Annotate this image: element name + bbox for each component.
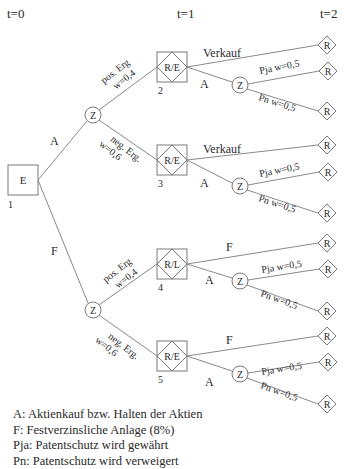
svg-text:R: R [324, 40, 331, 51]
svg-text:R: R [324, 140, 331, 151]
svg-text:R: R [324, 208, 331, 219]
chance-label: Z [90, 110, 96, 121]
terminal-node: R [318, 36, 336, 54]
time-label-t0: t=0 [7, 6, 24, 21]
node-number: 5 [158, 374, 163, 385]
svg-text:R: R [325, 167, 332, 178]
edge-node2-A [187, 67, 232, 82]
svg-text:R: R [324, 306, 331, 317]
edge-label-A: A [200, 77, 209, 91]
legend: A: Aktienkauf bzw. Halten der Aktien F: … [13, 407, 202, 469]
chance-node-2: Z [232, 77, 248, 93]
terminal-node: R [318, 327, 336, 345]
terminal-node: R [318, 204, 336, 222]
terminal-node: R [319, 353, 337, 371]
edge-label-pja: Pja w=0,5 [258, 57, 300, 76]
svg-text:R: R [324, 238, 331, 249]
root-node-label: E [20, 174, 27, 186]
terminal-node: R [318, 102, 336, 120]
edge-node5-A [187, 356, 232, 371]
edge-label-pja: Pja w=0,5 [261, 360, 303, 377]
edge-label-A: A [200, 176, 209, 190]
edge-label-pn: Pn w=0,5 [259, 288, 299, 311]
edge-label-node2: pos. Erg w=0,4 [98, 56, 138, 95]
terminal-node: R [318, 302, 336, 320]
chance-node-4: Z [232, 273, 248, 289]
chance-node-A: Z [85, 107, 101, 123]
edge-label-node3: neg. Erg. w=0,6 [97, 129, 144, 172]
edge-root-A [38, 121, 87, 180]
edge-label-pn: Pn w=0,5 [257, 192, 297, 214]
decision-node-4: R/L 4 [157, 249, 187, 293]
legend-item-Pja: Pja: Patentschutz wird gewährt [13, 438, 202, 454]
svg-text:R: R [324, 331, 331, 342]
edge-label-verkauf: Verkauf [203, 46, 241, 60]
svg-text:R/E: R/E [164, 62, 180, 73]
edge-label-pn: Pn w=0,5 [259, 380, 299, 403]
svg-text:R/L: R/L [164, 259, 180, 270]
chance-label: Z [90, 305, 96, 316]
svg-text:R: R [324, 399, 331, 410]
chance-node-3: Z [232, 178, 248, 194]
svg-text:R: R [325, 66, 332, 77]
terminal-node: R [318, 395, 336, 413]
terminal-node: R [319, 62, 337, 80]
edge-label-F: F [51, 244, 58, 258]
svg-text:R: R [325, 264, 332, 275]
terminal-node: R [319, 260, 337, 278]
decision-node-2: R/E 2 [157, 52, 187, 96]
legend-item-Pn: Pn: Patentschutz wird verweigert [13, 454, 202, 469]
chance-node-5: Z [232, 366, 248, 382]
edge-node3-A [187, 160, 232, 183]
legend-item-F: F: Festverzinsliche Anlage (8%) [13, 423, 202, 439]
terminal-node: R [318, 234, 336, 252]
legend-item-A: A: Aktienkauf bzw. Halten der Aktien [13, 407, 202, 423]
terminal-node: R [318, 136, 336, 154]
decision-node-3: R/E 3 [157, 145, 187, 189]
svg-text:R: R [325, 357, 332, 368]
node-number: 3 [158, 178, 163, 189]
edge-label-A: A [205, 273, 214, 287]
svg-text:R/E: R/E [164, 155, 180, 166]
edge-label-pn: Pn w=0,5 [257, 91, 297, 113]
svg-text:Z: Z [237, 276, 243, 287]
svg-text:R/E: R/E [164, 351, 180, 362]
root-decision-node: E 1 [8, 165, 38, 210]
edge-node5-F [187, 336, 318, 356]
terminal-node: R [319, 163, 337, 181]
edge-label-F: F [226, 333, 233, 347]
edge-label-node4: pos. Erg w=0,4 [100, 255, 140, 294]
svg-text:Z: Z [237, 80, 243, 91]
edge-label-verkauf: Verkauf [203, 142, 241, 156]
svg-text:Z: Z [237, 181, 243, 192]
svg-text:Z: Z [237, 369, 243, 380]
node-number: 2 [158, 85, 163, 96]
edge-label-node5: neg. Erg. w=0,6 [93, 325, 141, 370]
time-label-t1: t=1 [177, 6, 194, 21]
chance-node-F: Z [85, 302, 101, 318]
node-number: 4 [158, 282, 163, 293]
edge-label-A: A [50, 134, 59, 148]
edge-node2-pja [248, 71, 319, 84]
time-label-t2: t=2 [320, 6, 337, 21]
root-node-number: 1 [8, 199, 13, 210]
edge-root-F [38, 180, 88, 303]
edge-label-F: F [226, 240, 233, 254]
decision-node-5: R/E 5 [157, 341, 187, 385]
svg-text:R: R [324, 106, 331, 117]
edge-label-A: A [205, 375, 214, 389]
terminal-nodes: R R R R R R R R R R R R [318, 36, 337, 413]
